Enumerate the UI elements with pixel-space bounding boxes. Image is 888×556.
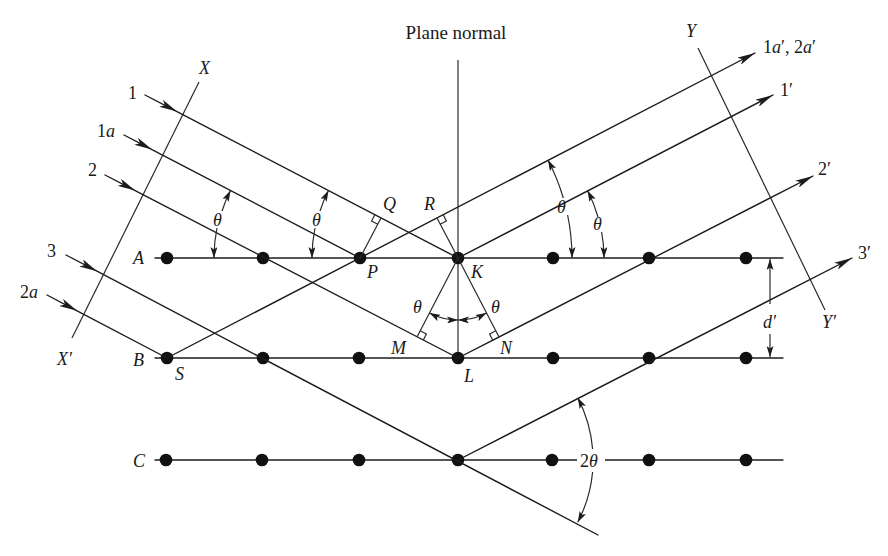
label-point-m: M: [390, 338, 407, 358]
label-ray-1a: 1a: [97, 121, 115, 141]
wavefront-x-line: [72, 82, 199, 338]
line-km: [417, 258, 458, 337]
label-ray-2: 2: [88, 160, 97, 180]
plane-a: [155, 252, 783, 265]
reflected-ray-1: [458, 95, 773, 258]
label-point-k: K: [470, 262, 484, 282]
atom: [547, 252, 560, 265]
atom: [353, 454, 366, 467]
atom: [161, 252, 174, 265]
reflected-ray-1a-2a: [167, 53, 755, 358]
atom: [160, 454, 173, 467]
incident-ray-1a: [124, 135, 360, 258]
label-ray-1: 1: [128, 83, 137, 103]
label-plane-a: A: [132, 248, 145, 268]
atom: [257, 252, 270, 265]
label-ray-3-prime: 3′: [858, 243, 871, 263]
bragg-diagram: Plane normal: [0, 0, 888, 556]
incident-ray-2: [105, 175, 458, 358]
label-ray-1-prime: 1′: [780, 80, 793, 100]
atom: [547, 352, 560, 365]
atom: [353, 352, 366, 365]
label-theta-incident-p: θ: [213, 210, 222, 230]
label-theta-kn: θ: [491, 297, 500, 317]
reflected-ray-3: [458, 258, 852, 460]
label-ray-3: 3: [47, 241, 56, 261]
label-d-prime: d′: [763, 312, 777, 332]
atom: [740, 352, 753, 365]
atom: [740, 454, 753, 467]
atom: [740, 252, 753, 265]
label-two-theta: 2θ: [580, 451, 598, 471]
label-point-s: S: [175, 364, 184, 384]
label-ray-1a-2a-prime: 1a′, 2a′: [763, 37, 816, 57]
plane-c: [155, 454, 783, 467]
label-ray-2a: 2a: [20, 282, 38, 302]
label-point-q: Q: [383, 194, 396, 214]
label-plane-b: B: [133, 350, 144, 370]
label-theta-km: θ: [413, 297, 422, 317]
plane-normal-label: Plane normal: [406, 22, 507, 43]
reflected-ray-2: [458, 176, 813, 358]
label-point-l: L: [463, 366, 474, 386]
plane-b: [155, 352, 783, 365]
label-plane-c: C: [133, 451, 146, 471]
label-x-prime: X′: [56, 349, 73, 369]
label-y-prime: Y′: [822, 312, 837, 332]
incident-ray-3: [66, 255, 598, 535]
atom: [256, 454, 269, 467]
atom: [643, 454, 656, 467]
label-point-n: N: [499, 338, 513, 358]
incident-ray-1: [145, 95, 458, 258]
atom: [546, 454, 559, 467]
label-theta-reflected-k: θ: [593, 214, 602, 234]
label-point-p: P: [366, 262, 378, 282]
label-theta-incident-k: θ: [312, 210, 321, 230]
label-y: Y: [686, 21, 698, 41]
label-point-r: R: [423, 194, 435, 214]
label-theta-reflected-p: θ: [557, 197, 566, 217]
label-x: X: [198, 58, 211, 78]
label-ray-2-prime: 2′: [818, 159, 831, 179]
